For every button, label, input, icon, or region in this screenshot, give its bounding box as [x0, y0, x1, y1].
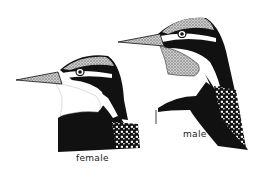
male-label: male: [183, 129, 207, 139]
female-label: female: [76, 153, 109, 163]
woodpecker-heads-drawing: [0, 0, 259, 178]
female-head: [16, 55, 140, 152]
bird-illustration: female male: [0, 0, 259, 178]
